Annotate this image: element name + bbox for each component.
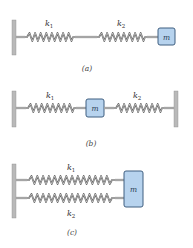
spring-k1-b [26,104,76,112]
diagram-b: m k1 k2 (b) [12,91,178,148]
diagram-a: m k1 k2 (a) [12,19,175,73]
wall-left-b [12,91,16,127]
wall-left-a [12,20,16,55]
spring-k1-c [27,176,115,184]
caption-b: (b) [86,139,97,148]
wall-right-b [174,91,178,127]
wall-left-c [12,164,16,218]
spring-label-k1-a: k1 [45,19,53,29]
caption-c: (c) [67,228,77,237]
spring-k2-b [114,104,164,112]
spring-label-k2-a: k2 [117,19,125,29]
spring-mass-diagram: m k1 k2 (a) m k1 k2 (b) [0,0,193,248]
spring-k1-a [25,33,75,41]
spring-label-k2-b: k2 [133,91,141,101]
caption-a: (a) [82,64,92,73]
spring-k2-a [97,33,147,41]
mass-label-a: m [163,33,170,42]
mass-label-b: m [91,104,98,113]
spring-label-k1-c: k1 [67,163,75,173]
spring-k2-c [27,194,115,202]
spring-label-k2-c: k2 [67,209,75,219]
diagram-c: m k1 k2 (c) [12,163,143,237]
spring-label-k1-b: k1 [46,91,54,101]
mass-label-c: m [130,185,137,194]
